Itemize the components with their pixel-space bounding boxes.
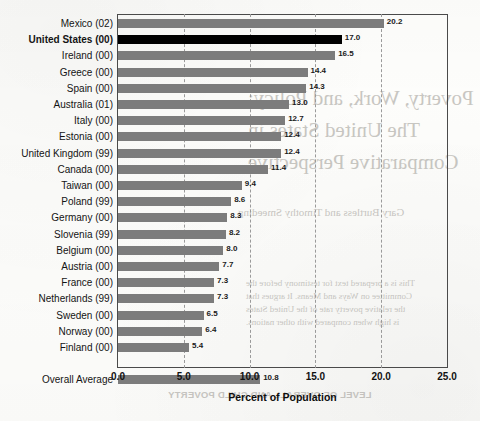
category-label: Sweden (00)	[0, 308, 113, 324]
x-tick-label: 20.0	[371, 371, 390, 382]
bar-row: 8.0	[117, 243, 448, 259]
bar-value-label: 7.3	[217, 276, 228, 285]
bar-row: 12.4	[117, 129, 448, 145]
category-label: Australia (01)	[0, 97, 113, 113]
category-label: United Kingdom (99)	[0, 146, 113, 162]
bar	[118, 35, 342, 44]
category-label: Italy (00)	[0, 113, 113, 129]
bar	[118, 165, 268, 174]
category-label: Spain (00)	[0, 81, 113, 97]
bar-row: 14.3	[117, 81, 448, 97]
bar	[118, 51, 335, 60]
category-label: Netherlands (99)	[0, 291, 113, 307]
bar-row: 9.4	[117, 178, 448, 194]
category-label: Poland (99)	[0, 194, 113, 210]
category-label: France (00)	[0, 275, 113, 291]
x-tick-label: 0.0	[111, 371, 125, 382]
bar-row: 8.3	[117, 210, 448, 226]
bar	[118, 343, 189, 352]
bar-row: 7.7	[117, 259, 448, 275]
bar-value-label: 16.5	[338, 49, 354, 58]
bar-row: 6.4	[117, 324, 448, 340]
bar	[118, 246, 223, 255]
bar-row: 8.6	[117, 194, 448, 210]
bar-row: 6.5	[117, 308, 448, 324]
category-label: United States (00)	[0, 32, 113, 48]
bar	[118, 311, 204, 320]
category-label: Mexico (02)	[0, 16, 113, 32]
bar-row: 12.4	[117, 146, 448, 162]
category-label: Canada (00)	[0, 162, 113, 178]
bar-row: 5.4	[117, 340, 448, 356]
bar-value-label: 7.7	[222, 260, 233, 269]
category-label: Taiwan (00)	[0, 178, 113, 194]
x-tick-label: 10.0	[240, 371, 259, 382]
category-label: Norway (00)	[0, 324, 113, 340]
value-axis-ticks: 0.05.010.015.020.025.0	[117, 371, 448, 385]
category-label: Germany (00)	[0, 210, 113, 226]
bar-value-label: 6.5	[207, 309, 218, 318]
bar-chart: Mexico (02)United States (00)Ireland (00…	[0, 0, 480, 421]
bar	[118, 278, 214, 287]
bar	[118, 213, 227, 222]
bar-value-label: 14.4	[311, 66, 327, 75]
bar-value-label: 12.7	[288, 114, 304, 123]
bar-rows: 20.217.016.514.414.313.012.712.412.411.4…	[117, 14, 448, 368]
bar-value-label: 12.4	[284, 147, 300, 156]
bar-row: 11.4	[117, 162, 448, 178]
bar-row: 13.0	[117, 97, 448, 113]
bar-value-label: 8.6	[234, 195, 245, 204]
bar	[118, 181, 242, 190]
category-label: Overall Average	[0, 372, 113, 388]
bar	[118, 19, 384, 28]
bar	[118, 100, 289, 109]
bar-value-label: 8.2	[229, 228, 240, 237]
bar	[118, 294, 214, 303]
category-label: Greece (00)	[0, 65, 113, 81]
bar-row: 20.2	[117, 16, 448, 32]
bar	[118, 116, 285, 125]
bar-value-label: 6.4	[205, 325, 216, 334]
bar-row: 7.3	[117, 275, 448, 291]
bar	[118, 197, 231, 206]
bar	[118, 262, 219, 271]
x-tick-label: 25.0	[437, 371, 456, 382]
bar-row: 16.5	[117, 48, 448, 64]
bar-value-label: 14.3	[309, 82, 325, 91]
bar-value-label: 13.0	[292, 98, 308, 107]
bar-value-label: 17.0	[345, 33, 361, 42]
bar-value-label: 11.4	[271, 163, 286, 172]
bar	[118, 84, 306, 93]
bar-row: 17.0	[117, 32, 448, 48]
bar	[118, 68, 308, 77]
x-tick-label: 15.0	[306, 371, 325, 382]
bar-row: 14.4	[117, 65, 448, 81]
bar-value-label: 8.3	[230, 211, 241, 220]
bar	[118, 149, 281, 158]
bar-value-label: 12.4	[284, 130, 300, 139]
bar-row: 7.3	[117, 291, 448, 307]
bar	[118, 230, 226, 239]
category-label: Estonia (00)	[0, 129, 113, 145]
category-label: Ireland (00)	[0, 48, 113, 64]
bar-row: 12.7	[117, 113, 448, 129]
x-axis-title: Percent of Population	[117, 391, 448, 403]
x-tick-label: 5.0	[177, 371, 191, 382]
category-axis-labels: Mexico (02)United States (00)Ireland (00…	[0, 14, 113, 368]
bar-row: 8.2	[117, 227, 448, 243]
category-label: Slovenia (99)	[0, 227, 113, 243]
bar	[118, 327, 202, 336]
category-label: Belgium (00)	[0, 243, 113, 259]
bar-value-label: 7.3	[217, 292, 228, 301]
bar-value-label: 9.4	[245, 179, 256, 188]
bar	[118, 132, 281, 141]
category-label: Austria (00)	[0, 259, 113, 275]
bar-value-label: 8.0	[226, 244, 237, 253]
bar-value-label: 5.4	[192, 341, 203, 350]
bar-value-label: 20.2	[387, 17, 403, 26]
category-label: Finland (00)	[0, 340, 113, 356]
